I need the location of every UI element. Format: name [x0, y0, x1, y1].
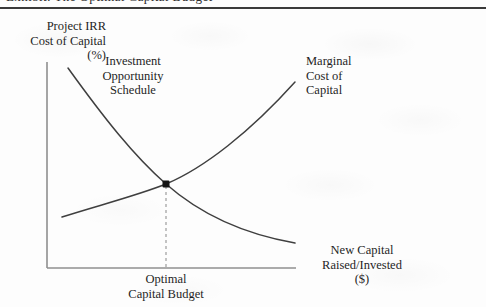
marginal-cost-of-capital-curve — [62, 82, 295, 217]
equilibrium-point-marker — [163, 181, 170, 188]
optimal-capital-budget-label: Optimal Capital Budget — [106, 272, 226, 301]
investment-opportunity-schedule-label: Investment Opportunity Schedule — [84, 54, 182, 98]
x-axis-label: New Capital Raised/Invested ($) — [302, 243, 422, 287]
marginal-cost-of-capital-label: Marginal Cost of Capital — [306, 54, 396, 98]
figure-page: Exhibit: The Optimal Capital Budget Proj… — [0, 0, 486, 307]
